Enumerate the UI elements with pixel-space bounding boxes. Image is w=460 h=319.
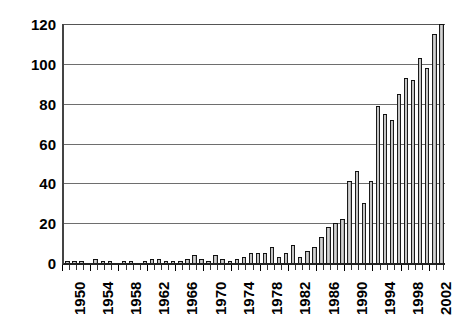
- bar: [178, 261, 182, 263]
- bar: [220, 259, 224, 263]
- bar: [171, 261, 175, 263]
- bar: [326, 227, 330, 263]
- bar: [206, 261, 210, 263]
- bar: [143, 261, 147, 263]
- x-tick-label: 1962: [156, 282, 171, 315]
- bar: [93, 259, 97, 263]
- x-tick: [443, 265, 444, 270]
- bar: [72, 261, 76, 263]
- bar: [298, 257, 302, 263]
- bar: [355, 171, 359, 263]
- y-axis: 020406080100120: [0, 0, 56, 319]
- bar: [390, 120, 394, 263]
- bar: [270, 247, 274, 263]
- bar: [333, 223, 337, 263]
- x-axis: 1950195419581962196619701974197819821986…: [62, 265, 443, 319]
- x-tick-label: 1990: [354, 282, 369, 315]
- bar: [432, 34, 436, 263]
- bar-chart: 020406080100120 195019541958196219661970…: [0, 0, 460, 319]
- y-tick-label: 0: [48, 256, 56, 271]
- bar: [340, 219, 344, 263]
- bar: [213, 255, 217, 263]
- bar: [362, 203, 366, 263]
- bar: [101, 261, 105, 263]
- bar: [383, 114, 387, 263]
- bar: [192, 255, 196, 263]
- bar: [425, 68, 429, 263]
- bar: [418, 58, 422, 263]
- bar: [122, 261, 126, 263]
- bar: [277, 257, 281, 263]
- bar: [347, 181, 351, 263]
- bar: [411, 80, 415, 263]
- bar: [376, 106, 380, 263]
- bar: [256, 253, 260, 263]
- y-tick-label: 20: [39, 216, 56, 231]
- x-tick-label: 1954: [100, 282, 115, 315]
- bar: [397, 94, 401, 263]
- bar: [185, 259, 189, 263]
- bar: [369, 181, 373, 263]
- bar: [157, 259, 161, 263]
- bar: [319, 237, 323, 263]
- bar: [199, 259, 203, 263]
- bar: [312, 247, 316, 263]
- x-tick-label: 1994: [382, 282, 397, 315]
- bar: [150, 259, 154, 263]
- x-tick-label: 1974: [241, 282, 256, 315]
- bars-layer: [64, 24, 445, 263]
- y-tick-label: 40: [39, 176, 56, 191]
- x-tick-label: 1966: [184, 282, 199, 315]
- x-tick-label: 1998: [410, 282, 425, 315]
- bar: [291, 245, 295, 263]
- bar: [404, 78, 408, 263]
- x-tick-label: 1958: [128, 282, 143, 315]
- x-tick-label: 1982: [297, 282, 312, 315]
- bar: [129, 261, 133, 263]
- x-tick-label: 2002: [438, 282, 453, 315]
- bar: [305, 251, 309, 263]
- y-tick-label: 100: [31, 57, 56, 72]
- x-tick-label: 1986: [326, 282, 341, 315]
- y-tick-label: 80: [39, 97, 56, 112]
- bar: [164, 261, 168, 263]
- x-tick-label: 1950: [72, 282, 87, 315]
- bar: [235, 259, 239, 263]
- bar: [439, 24, 443, 263]
- bar: [242, 257, 246, 263]
- bar: [249, 253, 253, 263]
- x-tick-label: 1978: [269, 282, 284, 315]
- y-tick-label: 60: [39, 137, 56, 152]
- bar: [284, 253, 288, 263]
- x-tick-label: 1970: [213, 282, 228, 315]
- bar: [228, 261, 232, 263]
- bar: [263, 253, 267, 263]
- bar: [79, 261, 83, 263]
- bar: [108, 261, 112, 263]
- bar: [65, 261, 69, 263]
- y-tick-label: 120: [31, 17, 56, 32]
- plot-area: [62, 24, 445, 265]
